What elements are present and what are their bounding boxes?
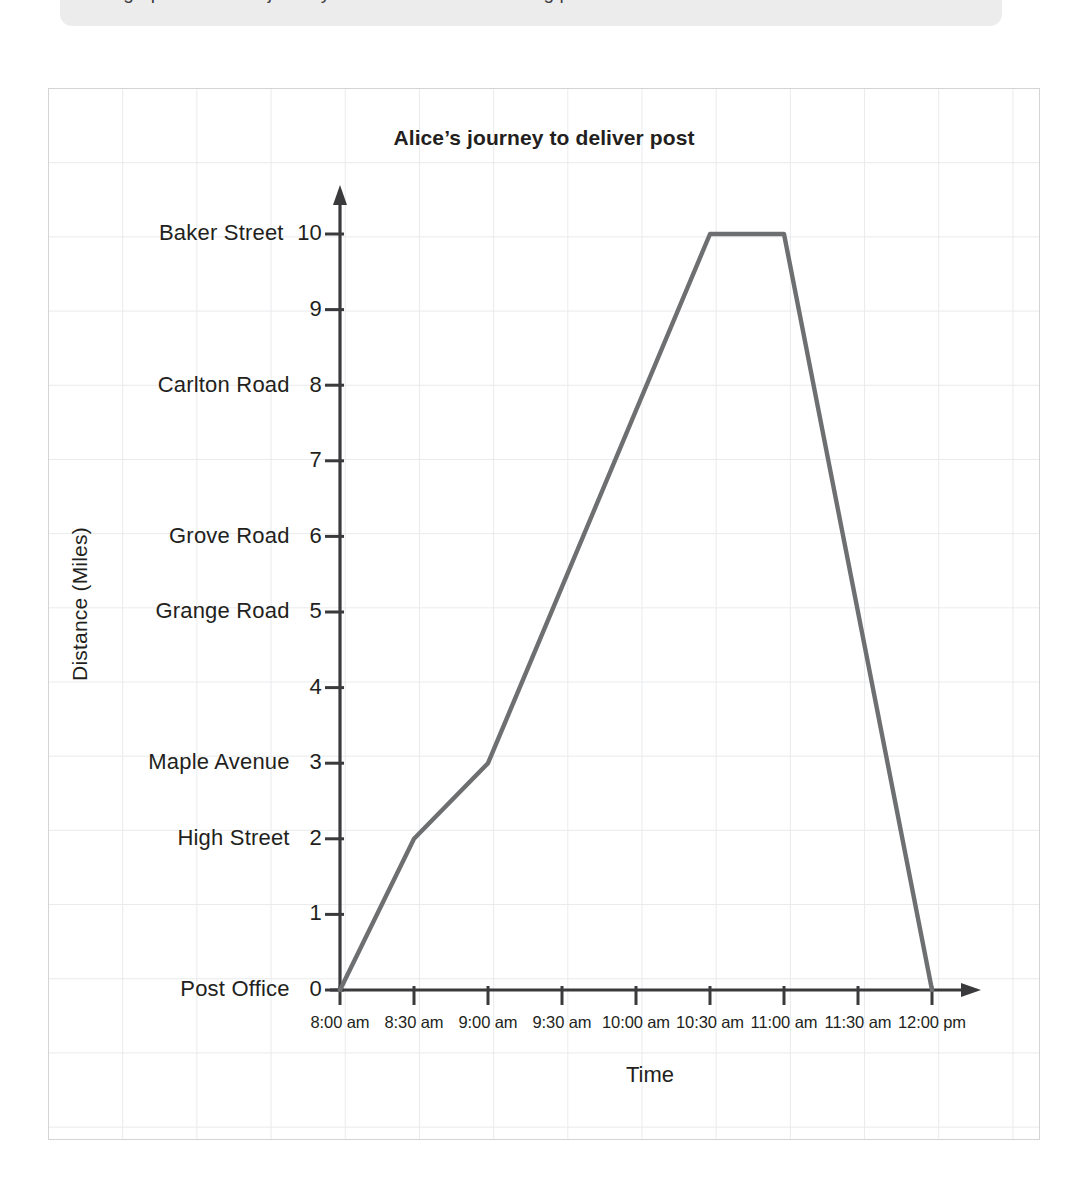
y-tick-number-4: 4 [296,674,322,700]
y-tick-place-10: Baker Street [159,220,284,245]
instruction-banner-text: This graph shows the journey Alice took … [82,0,601,4]
x-axis-title: Time [510,1062,790,1088]
y-tick-number-5: 5 [296,598,322,624]
y-tick-number-0: 0 [296,976,322,1002]
y-tick-place-5: Grange Road [155,598,289,623]
y-axis-title: Distance (Miles) [68,504,92,704]
y-tick-number-3: 3 [296,749,322,775]
y-tick-label-1: 1 [62,900,322,926]
y-tick-number-10: 10 [290,220,322,246]
y-tick-label-0: Post Office 0 [62,976,322,1002]
y-tick-label-7: 7 [62,447,322,473]
y-tick-number-6: 6 [296,523,322,549]
y-tick-number-8: 8 [296,372,322,398]
y-tick-label-9: 9 [62,296,322,322]
y-tick-number-7: 7 [296,447,322,473]
y-tick-place-2: High Street [177,825,289,850]
y-tick-label-6: Grove Road 6 [62,523,322,549]
y-tick-label-10: Baker Street 10 [62,220,322,246]
y-tick-place-0: Post Office [180,976,289,1001]
instruction-banner: This graph shows the journey Alice took … [60,0,1002,26]
y-tick-place-6: Grove Road [169,523,290,548]
y-tick-label-4: 4 [62,674,322,700]
x-tick-label-8: 12:00 pm [872,1013,992,1032]
y-tick-label-3: Maple Avenue 3 [62,749,322,775]
y-tick-number-2: 2 [296,825,322,851]
chart-title: Alice’s journey to deliver post [0,126,1088,150]
y-tick-number-9: 9 [296,296,322,322]
y-tick-place-8: Carlton Road [158,372,290,397]
y-tick-label-2: High Street 2 [62,825,322,851]
y-tick-place-3: Maple Avenue [148,749,289,774]
y-tick-number-1: 1 [296,900,322,926]
y-tick-label-8: Carlton Road 8 [62,372,322,398]
y-tick-label-5: Grange Road 5 [62,598,322,624]
